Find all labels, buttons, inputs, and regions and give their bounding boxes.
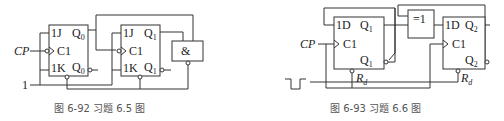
caption-6-92: 图 6-92 习题 6.5 图	[54, 103, 145, 114]
ff0-k-label: 1K	[51, 61, 66, 75]
ff0-qn-bubble-icon	[88, 68, 92, 72]
ff1-qn-bubble-icon	[384, 60, 388, 64]
reset-pulse-waveform-icon	[285, 79, 306, 89]
ff1-reset-bubble-icon	[350, 69, 354, 73]
ff2-reset-bubble-icon	[456, 69, 460, 73]
ff0-reset-bubble-icon	[65, 75, 69, 79]
ff1-reset-bubble-icon	[138, 75, 142, 79]
xor-gate-symbol: =1	[413, 12, 426, 26]
ff1-clk-label: C1	[343, 37, 357, 51]
cp-label: CP	[14, 44, 30, 58]
ff1-clk-label: C1	[129, 44, 143, 58]
figure-6-92: 1J C1 1K Q0 Q0 CP 1J C1 1K Q1 Q1 1	[14, 15, 203, 114]
ff1-qn-bubble-icon	[160, 68, 164, 72]
wire-q1-to-gate	[160, 32, 183, 41]
ff1-k-label: 1K	[123, 61, 138, 75]
figure-6-93: 1D C1 Q1 Q1 Rd CP =1 1D C1 Q2 Q2 Rd	[285, 5, 490, 114]
ff2-qn-bubble-icon	[485, 60, 489, 64]
ff0-clk-bubble-icon	[45, 49, 49, 53]
ff1-reset-label: Rd	[355, 71, 368, 87]
caption-6-93: 图 6-93 习题 6.6 图	[330, 103, 421, 114]
circuit-diagrams: 1J C1 1K Q0 Q0 CP 1J C1 1K Q1 Q1 1	[0, 0, 504, 121]
ff1-d-label: 1D	[336, 18, 351, 32]
ff0-j-label: 1J	[51, 26, 62, 40]
ff0-clk-label: C1	[57, 44, 71, 58]
const-one-label: 1	[22, 78, 28, 92]
ff1-clk-bubble-icon	[117, 49, 121, 53]
and-gate-symbol: &	[181, 44, 191, 58]
gate-output-bubble-icon	[186, 61, 190, 65]
ff2-reset-label: Rd	[460, 71, 473, 87]
ff2-d-label: 1D	[445, 18, 460, 32]
cp-label: CP	[300, 37, 316, 51]
ff2-clk-label: C1	[452, 37, 466, 51]
ff1-j-label: 1J	[123, 26, 134, 40]
